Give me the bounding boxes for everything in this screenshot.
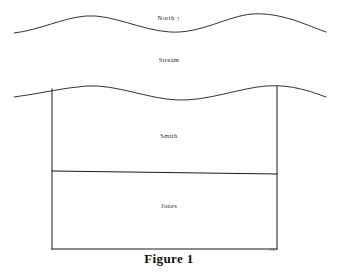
stream-label: Stream [0, 57, 338, 64]
north-label-text: North [158, 14, 175, 21]
north-arrow-icon: ↑ [177, 15, 181, 23]
north-label: North↑ [0, 15, 338, 23]
parcel-label-smith: Smith [0, 133, 338, 140]
figure-container: North↑ Stream Smith Jones 1984 Figure 1 [0, 0, 338, 275]
figure-caption: Figure 1 [0, 252, 338, 265]
parcel-label-jones: Jones [0, 203, 338, 210]
